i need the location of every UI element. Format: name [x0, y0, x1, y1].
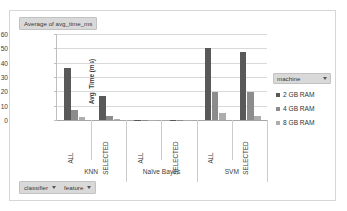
- category-level2-label: Naïve Bayes: [143, 168, 180, 175]
- category-level1-cell: SELECTED: [162, 120, 198, 160]
- category-level2-label: SVM: [225, 168, 239, 175]
- bar-group: [198, 34, 233, 120]
- machine-filter-label: machine: [277, 75, 323, 82]
- pivot-chart-container: Average of avg_time_ms Avg. Time (ms) 01…: [9, 10, 336, 201]
- bar: [247, 92, 254, 120]
- legend-label: 8 GB RAM: [283, 119, 315, 126]
- filter-button-label: classifier: [24, 184, 48, 191]
- value-field-button[interactable]: Average of avg_time_ms: [19, 17, 97, 30]
- value-field-label: Average of avg_time_ms: [24, 20, 92, 27]
- y-axis-tick-label: 50: [0, 45, 8, 52]
- legend-swatch-icon: [276, 121, 280, 125]
- category-level2-label: KNN: [84, 168, 98, 175]
- bar: [205, 48, 212, 120]
- category-level1-cell: ALL: [126, 120, 162, 160]
- legend-entry: 2 GB RAM: [273, 91, 331, 98]
- category-level1-cell: ALL: [197, 120, 233, 160]
- legend-swatch-icon: [276, 107, 280, 111]
- legend-label: 4 GB RAM: [283, 105, 315, 112]
- bar: [64, 68, 71, 120]
- legend-swatch-icon: [276, 93, 280, 97]
- chevron-down-icon: [323, 77, 327, 80]
- bar-group: [127, 34, 162, 120]
- category-level1-cell: SELECTED: [91, 120, 127, 160]
- category-level2-cell: SVM: [197, 160, 268, 182]
- legend-entry: 4 GB RAM: [273, 105, 331, 112]
- filter-button-label: feature: [64, 184, 83, 191]
- machine-filter-button[interactable]: machine: [273, 73, 331, 84]
- y-axis-tick-label: 40: [0, 59, 8, 66]
- chart-legend: machine 2 GB RAM4 GB RAM8 GB RAM: [273, 73, 331, 126]
- filter-button-feature[interactable]: feature: [60, 182, 95, 193]
- category-level1-cell: ALL: [56, 120, 92, 160]
- plot-area: Avg. Time (ms) 0102030405060: [56, 34, 267, 120]
- category-level1-cell: SELECTED: [232, 120, 268, 160]
- bar: [71, 110, 78, 120]
- bar-group: [92, 34, 127, 120]
- bar: [212, 92, 219, 120]
- bar: [240, 52, 247, 121]
- y-axis-tick-label: 30: [0, 74, 8, 81]
- chevron-down-icon: [52, 186, 56, 189]
- filter-button-classifier[interactable]: classifier: [20, 182, 60, 193]
- y-axis-tick-label: 10: [0, 102, 8, 109]
- category-level2-cell: KNN: [56, 160, 127, 182]
- bar-group: [233, 34, 268, 120]
- bar: [99, 96, 106, 120]
- legend-entry: 8 GB RAM: [273, 119, 331, 126]
- bar-group: [57, 34, 92, 120]
- y-axis-tick-label: 0: [0, 117, 8, 124]
- bar: [219, 113, 226, 120]
- category-level2-cell: Naïve Bayes: [126, 160, 197, 182]
- bottom-filter-bar: classifierfeature: [19, 181, 96, 194]
- category-axis: ALLSELECTEDALLSELECTEDALLSELECTEDKNNNaïv…: [56, 120, 267, 182]
- bar-group: [163, 34, 198, 120]
- chevron-down-icon: [87, 186, 91, 189]
- y-axis-tick-label: 60: [0, 31, 8, 38]
- y-axis-tick-label: 20: [0, 88, 8, 95]
- legend-label: 2 GB RAM: [283, 91, 315, 98]
